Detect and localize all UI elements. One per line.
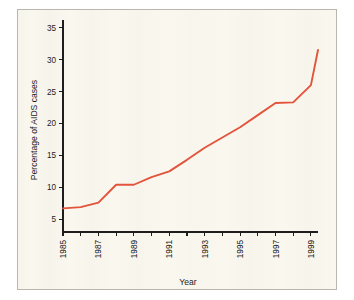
- x-axis-tick-labels: 19851987198919911993199519971999: [59, 240, 316, 259]
- y-axis-title: Percentage of AIDS cases: [29, 80, 39, 180]
- x-axis-tick-label: 1995: [236, 240, 245, 259]
- y-axis-tick-label: 25: [47, 88, 57, 97]
- y-axis-tick-label: 30: [47, 56, 57, 65]
- data-series-line: [63, 50, 318, 208]
- x-axis-tick-label: 1989: [130, 240, 139, 259]
- line-chart: 5101520253035 19851987198919911993199519…: [0, 0, 354, 300]
- y-axis-tick-label: 35: [47, 24, 57, 33]
- y-axis-tick-label: 10: [47, 183, 57, 192]
- x-axis-tick-label: 1985: [59, 240, 68, 259]
- figure-canvas: 5101520253035 19851987198919911993199519…: [0, 0, 354, 300]
- x-axis-tick-label: 1987: [94, 240, 103, 259]
- y-axis-tick-label: 15: [47, 151, 57, 160]
- y-axis-tick-label: 20: [47, 119, 57, 128]
- x-axis-tick-label: 1997: [272, 240, 281, 259]
- x-axis-ticks: [63, 232, 311, 236]
- x-axis-tick-label: 1999: [307, 240, 316, 259]
- y-axis-ticks: [59, 28, 63, 220]
- x-axis-tick-label: 1991: [165, 240, 174, 259]
- y-axis-tick-labels: 5101520253035: [47, 24, 57, 225]
- x-axis-tick-label: 1993: [201, 240, 210, 259]
- y-axis-tick-label: 5: [51, 215, 56, 224]
- x-axis-title: Year: [179, 277, 197, 287]
